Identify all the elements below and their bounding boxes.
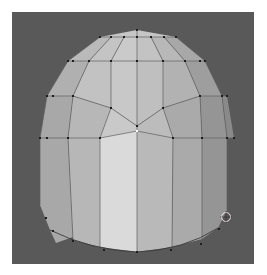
3d-viewport[interactable] — [12, 12, 254, 264]
selected-vertex[interactable] — [136, 130, 138, 132]
mesh-canvas[interactable] — [12, 12, 254, 264]
